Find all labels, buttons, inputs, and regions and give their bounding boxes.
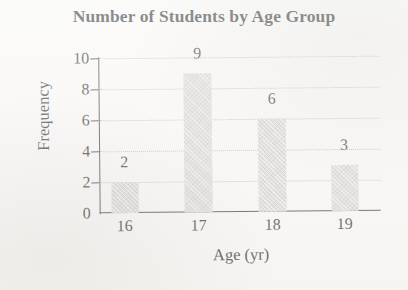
x-tick-label-19: 19 xyxy=(320,215,370,232)
bar-age-17[interactable] xyxy=(183,73,212,213)
y-tick-label-0: 0 xyxy=(51,205,91,221)
x-tick-label-16: 16 xyxy=(100,217,150,234)
bar-value-label-18: 6 xyxy=(252,91,292,107)
gridline-6 xyxy=(100,118,380,122)
bar-value-label-17: 9 xyxy=(177,45,217,61)
x-tick-label-18: 18 xyxy=(248,215,298,232)
x-axis-title: Age (yr) xyxy=(101,244,381,267)
y-tick-mark-10 xyxy=(90,58,98,59)
y-tick-mark-4 xyxy=(91,151,99,152)
chart-title: Number of Students by Age Group xyxy=(0,6,408,27)
y-tick-label-2: 2 xyxy=(50,174,90,190)
y-tick-label-4: 4 xyxy=(50,143,90,159)
y-tick-mark-2 xyxy=(91,182,99,183)
gridline-8 xyxy=(100,87,380,91)
y-tick-mark-6 xyxy=(91,120,99,121)
bar-age-18[interactable] xyxy=(258,119,287,212)
plot-area xyxy=(99,56,380,214)
y-tick-mark-8 xyxy=(91,89,99,90)
gridline-10 xyxy=(99,56,379,60)
y-tick-label-6: 6 xyxy=(50,112,90,128)
x-tick-label-17: 17 xyxy=(174,216,224,233)
bar-age-19[interactable] xyxy=(331,164,358,211)
bar-age-16[interactable] xyxy=(111,182,138,213)
bar-chart-screenshot: Number of Students by Age Group Frequenc… xyxy=(0,0,408,290)
bar-value-label-16: 2 xyxy=(104,154,144,170)
bar-value-label-19: 3 xyxy=(324,137,364,153)
chart-plot-body: Frequency 10 8 6 4 2 0 2 9 xyxy=(0,0,408,290)
y-tick-label-8: 8 xyxy=(49,81,89,97)
y-tick-label-10: 10 xyxy=(49,50,89,66)
